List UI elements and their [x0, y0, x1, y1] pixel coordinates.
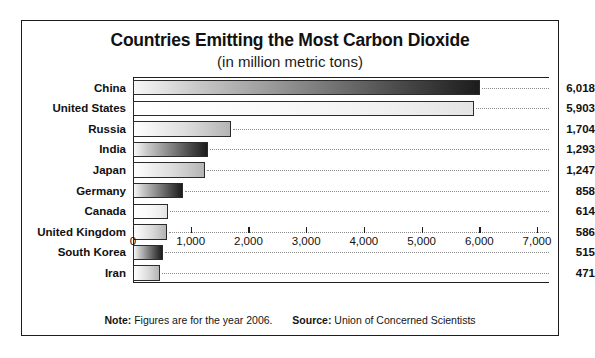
leader-line — [482, 88, 549, 89]
category-label-japan: Japan — [22, 160, 126, 181]
leader-line — [476, 108, 549, 109]
value-label-united-kingdom: 586 — [555, 222, 595, 243]
x-tick-label: 1,000 — [176, 235, 205, 247]
bar-iran — [133, 265, 160, 280]
bar-china — [133, 80, 480, 95]
chart-card: Countries Emitting the Most Carbon Dioxi… — [21, 20, 559, 336]
leader-line — [162, 273, 549, 274]
category-label-germany: Germany — [22, 181, 126, 202]
value-label-russia: 1,704 — [555, 119, 595, 140]
value-label-china: 6,018 — [555, 78, 595, 99]
value-label-india: 1,293 — [555, 139, 595, 160]
bar-row: Japan1,247 — [22, 160, 560, 181]
bar-row: United States5,903 — [22, 98, 560, 119]
x-tick-label: 0 — [130, 235, 136, 247]
x-tick-label: 7,000 — [523, 235, 552, 247]
bar-row: Iran471 — [22, 263, 560, 284]
value-label-japan: 1,247 — [555, 160, 595, 181]
note-text: Figures are for the year 2006. — [134, 314, 272, 326]
category-label-south-korea: South Korea — [22, 242, 126, 263]
category-label-canada: Canada — [22, 201, 126, 222]
bar-germany — [133, 183, 183, 198]
bar-row: Germany858 — [22, 181, 560, 202]
bar-row: Canada614 — [22, 201, 560, 222]
source-text: Union of Concerned Scientists — [334, 314, 475, 326]
chart-subtitle: (in million metric tons) — [22, 53, 558, 70]
x-tick-label: 6,000 — [465, 235, 494, 247]
category-label-united-kingdom: United Kingdom — [22, 222, 126, 243]
category-label-india: India — [22, 139, 126, 160]
value-label-united-states: 5,903 — [555, 98, 595, 119]
x-tick-label: 5,000 — [407, 235, 436, 247]
x-tick-label: 3,000 — [292, 235, 321, 247]
value-label-germany: 858 — [555, 181, 595, 202]
value-label-south-korea: 515 — [555, 242, 595, 263]
bar-india — [133, 142, 208, 157]
x-tick — [364, 227, 365, 233]
category-label-china: China — [22, 78, 126, 99]
plot-area: China6,018United States5,903Russia1,704I… — [22, 76, 560, 298]
category-label-iran: Iran — [22, 263, 126, 284]
value-label-iran: 471 — [555, 263, 595, 284]
x-tick-label: 2,000 — [234, 235, 263, 247]
x-axis: 01,0002,0003,0004,0005,0006,0007,000 — [133, 227, 549, 263]
x-tick — [479, 227, 480, 233]
value-label-canada: 614 — [555, 201, 595, 222]
bar-row: China6,018 — [22, 78, 560, 99]
bar-canada — [133, 204, 168, 219]
category-label-united-states: United States — [22, 98, 126, 119]
leader-line — [185, 191, 549, 192]
chart-title: Countries Emitting the Most Carbon Dioxi… — [22, 30, 558, 51]
x-tick — [422, 227, 423, 233]
leader-line — [207, 170, 549, 171]
x-tick — [191, 227, 192, 233]
leader-line — [170, 211, 549, 212]
bar-russia — [133, 121, 231, 136]
x-tick — [306, 227, 307, 233]
bar-japan — [133, 162, 205, 177]
leader-line — [210, 149, 549, 150]
source-label: Source: — [292, 314, 331, 326]
bar-row: India1,293 — [22, 139, 560, 160]
bar-united-states — [133, 101, 474, 116]
x-tick — [248, 227, 249, 233]
category-label-russia: Russia — [22, 119, 126, 140]
x-tick — [133, 227, 134, 233]
leader-line — [233, 129, 549, 130]
bar-row: Russia1,704 — [22, 119, 560, 140]
chart-footnote: Note: Figures are for the year 2006. Sou… — [22, 314, 558, 326]
x-tick — [537, 227, 538, 233]
x-tick-label: 4,000 — [349, 235, 378, 247]
note-label: Note: — [104, 314, 131, 326]
